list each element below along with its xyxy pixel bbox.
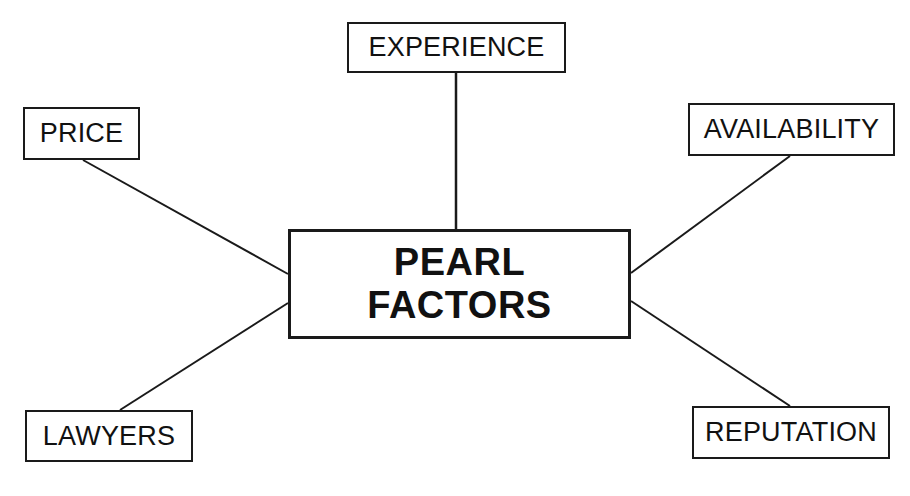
node-price-label: PRICE [40, 118, 124, 148]
node-lawyers-label: LAWYERS [43, 421, 175, 451]
node-price: PRICE [23, 107, 140, 160]
node-pearl-factors-hub: PEARL FACTORS [288, 229, 631, 339]
connector-lawyers-hub [120, 303, 288, 410]
connector-availability-hub [631, 156, 790, 273]
node-lawyers: LAWYERS [25, 410, 193, 462]
node-availability: AVAILABILITY [688, 103, 895, 156]
node-reputation-label: REPUTATION [705, 417, 877, 447]
connector-price-hub [83, 160, 288, 274]
node-availability-label: AVAILABILITY [704, 114, 879, 144]
diagram-canvas: EXPERIENCE PRICE AVAILABILITY LAWYERS RE… [0, 0, 910, 496]
node-pearl-factors-label: PEARL FACTORS [367, 241, 551, 326]
node-reputation: REPUTATION [692, 406, 890, 459]
node-experience: EXPERIENCE [347, 22, 566, 73]
connector-reputation-hub [631, 301, 790, 406]
node-experience-label: EXPERIENCE [368, 32, 544, 62]
